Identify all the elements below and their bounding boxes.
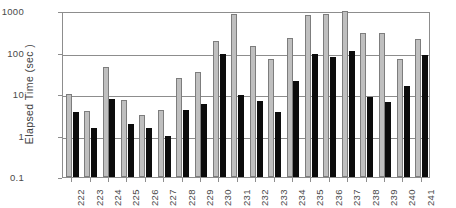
y-axis-tick-mark: [58, 178, 62, 179]
bar-series-b-226: [146, 128, 152, 177]
bar-series-a-227: [158, 110, 164, 177]
x-axis-tick-mark: [200, 178, 201, 182]
x-axis-tick-label-238: 238: [370, 172, 381, 206]
bar-series-b-228: [183, 110, 189, 177]
y-axis-tick-label: 100: [0, 49, 24, 59]
x-axis-tick-mark: [182, 178, 183, 182]
x-axis-tick-mark: [163, 178, 164, 182]
x-axis-tick-mark: [218, 178, 219, 182]
bar-series-a-237: [342, 11, 348, 177]
bar-series-a-225: [121, 100, 127, 177]
bar-series-b-236: [330, 57, 336, 177]
x-axis-tick-label-233: 233: [278, 172, 289, 206]
x-axis-tick-mark: [126, 178, 127, 182]
bar-series-b-231: [238, 95, 244, 177]
bar-series-a-238: [360, 33, 366, 177]
bar-series-b-235: [312, 54, 318, 177]
bar-series-a-228: [176, 78, 182, 177]
x-axis-tick-mark: [402, 178, 403, 182]
bar-series-b-230: [220, 54, 226, 177]
bar-series-a-232: [250, 46, 256, 177]
bar-series-b-241: [422, 55, 428, 177]
bar-series-b-239: [385, 102, 391, 178]
x-axis-tick-mark: [292, 178, 293, 182]
bar-series-b-229: [201, 104, 207, 177]
bar-series-a-224: [103, 67, 109, 177]
x-axis-tick-mark: [255, 178, 256, 182]
x-axis-tick-label-239: 239: [388, 172, 399, 206]
x-axis-tick-label-227: 227: [167, 172, 178, 206]
bar-series-b-227: [165, 136, 171, 177]
bar-series-a-223: [84, 111, 90, 177]
y-axis-tick-label: 10: [0, 90, 24, 100]
y-axis-title: Elapsed Time (sec ): [23, 9, 35, 179]
bar-series-b-233: [275, 112, 281, 177]
x-axis-tick-mark: [71, 178, 72, 182]
x-axis-tick-label-241: 241: [425, 172, 436, 206]
x-axis-tick-label-228: 228: [186, 172, 197, 206]
bar-series-a-233: [268, 59, 274, 177]
y-axis-tick-label: 1: [0, 132, 24, 142]
x-axis-tick-label-232: 232: [259, 172, 270, 206]
bar-series-b-238: [367, 97, 373, 177]
x-axis-tick-label-225: 225: [130, 172, 141, 206]
bar-series-b-225: [128, 124, 134, 177]
bar-series-a-231: [231, 14, 237, 177]
x-axis-tick-label-237: 237: [351, 172, 362, 206]
x-axis-tick-mark: [421, 178, 422, 182]
x-axis-tick-label-224: 224: [112, 172, 123, 206]
x-axis-tick-label-223: 223: [94, 172, 105, 206]
x-axis-tick-label-240: 240: [406, 172, 417, 206]
y-axis-tick-label: 1000: [0, 7, 24, 17]
bar-series-a-235: [305, 15, 311, 177]
x-axis-tick-mark: [237, 178, 238, 182]
bar-series-b-224: [109, 99, 115, 177]
bars-layer: [63, 13, 429, 177]
x-axis-tick-mark: [384, 178, 385, 182]
bar-series-a-234: [287, 38, 293, 177]
x-axis-tick-mark: [366, 178, 367, 182]
y-axis-tick-label: 0.1: [0, 173, 24, 183]
x-axis-tick-mark: [108, 178, 109, 182]
bar-series-a-241: [415, 39, 421, 177]
x-axis-tick-label-222: 222: [75, 172, 86, 206]
bar-series-a-229: [195, 72, 201, 177]
bar-series-a-222: [66, 94, 72, 177]
x-axis-tick-label-231: 231: [241, 172, 252, 206]
plot-area: [62, 12, 430, 178]
x-axis-tick-mark: [347, 178, 348, 182]
x-axis-tick-mark: [145, 178, 146, 182]
x-axis-tick-label-235: 235: [314, 172, 325, 206]
bar-series-a-236: [323, 14, 329, 177]
x-axis-tick-label-226: 226: [149, 172, 160, 206]
bar-series-a-240: [397, 59, 403, 177]
bar-series-a-239: [379, 33, 385, 177]
bar-series-b-234: [293, 81, 299, 177]
x-axis-tick-label-234: 234: [296, 172, 307, 206]
x-axis-tick-mark: [274, 178, 275, 182]
bar-series-a-230: [213, 41, 219, 177]
bar-series-b-222: [73, 112, 79, 177]
x-axis-tick-mark: [310, 178, 311, 182]
x-axis-tick-label-229: 229: [204, 172, 215, 206]
x-axis-tick-mark: [90, 178, 91, 182]
bar-series-b-240: [404, 86, 410, 177]
bar-series-b-232: [257, 101, 263, 177]
x-axis-tick-mark: [329, 178, 330, 182]
bar-series-b-223: [91, 128, 97, 177]
chart-root: Elapsed Time (sec ) 10001001010.1 222223…: [0, 0, 456, 208]
bar-series-a-226: [139, 115, 145, 177]
bar-series-b-237: [349, 51, 355, 177]
x-axis-tick-label-236: 236: [333, 172, 344, 206]
x-axis-tick-label-230: 230: [222, 172, 233, 206]
